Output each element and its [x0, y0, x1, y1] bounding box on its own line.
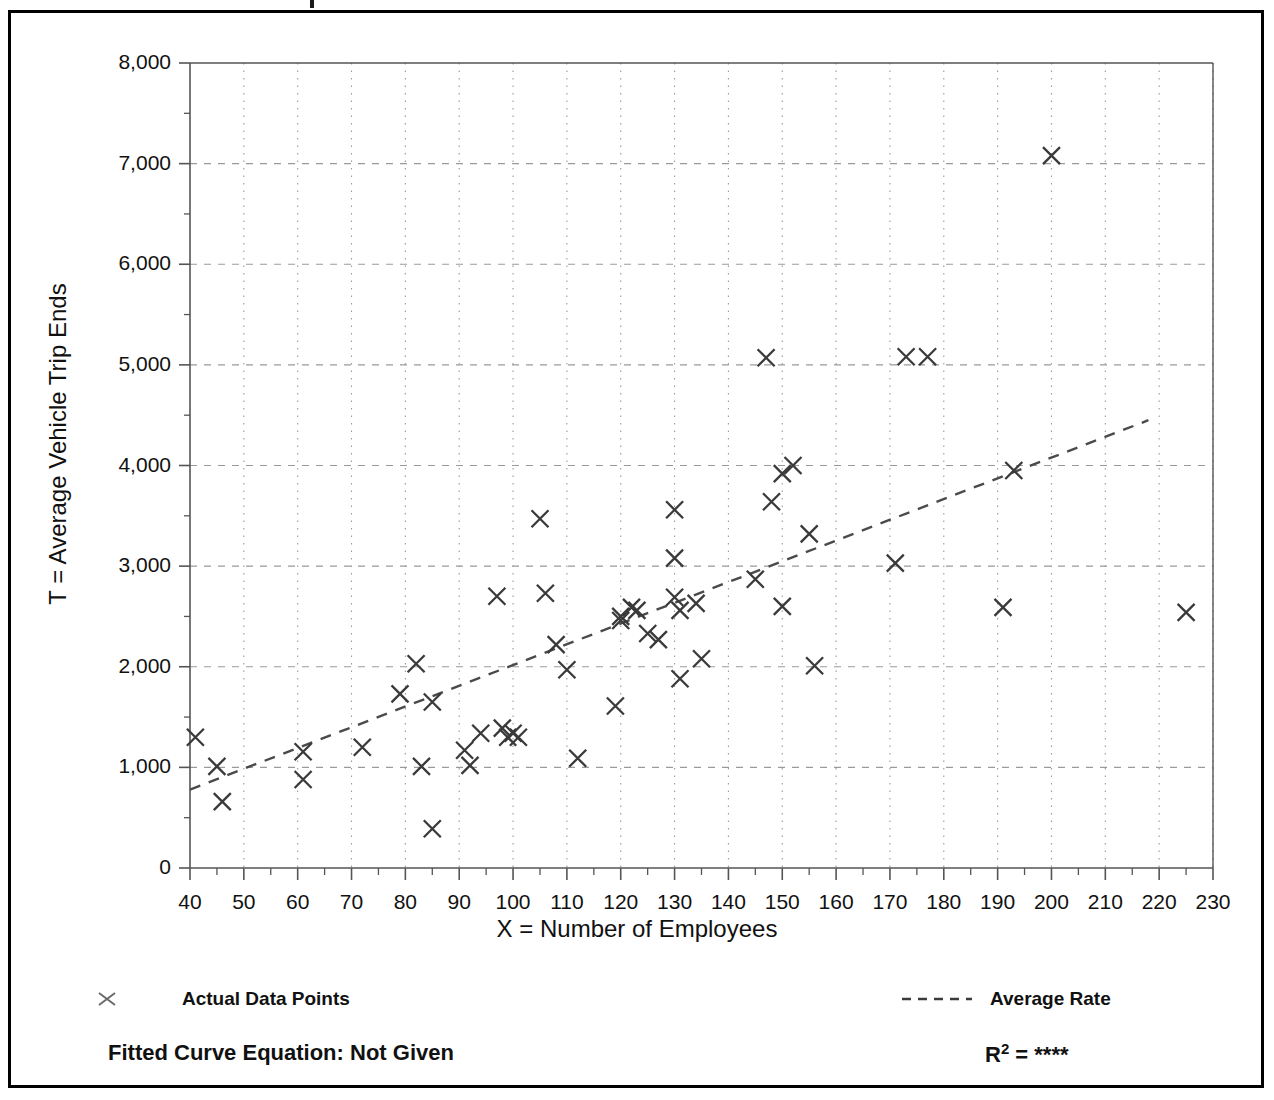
data-point — [887, 555, 904, 572]
data-point — [763, 493, 780, 510]
data-point — [214, 793, 231, 810]
data-point — [472, 725, 489, 742]
y-tick-label: 6,000 — [87, 251, 171, 275]
data-point-markers — [187, 147, 1195, 837]
y-tick-label: 7,000 — [87, 151, 171, 175]
legend-label-average-rate: Average Rate — [990, 988, 1111, 1010]
x-tick-label: 60 — [268, 890, 328, 914]
data-point — [628, 602, 645, 619]
x-tick-label: 180 — [914, 890, 974, 914]
y-tick-label: 4,000 — [87, 453, 171, 477]
data-point — [898, 348, 915, 365]
chart-footer: Fitted Curve Equation: Not Given R2 = **… — [0, 1040, 1274, 1076]
axis-ticks — [179, 63, 1213, 880]
data-point — [747, 571, 764, 588]
legend-label-actual-data-points: Actual Data Points — [182, 988, 350, 1010]
data-point — [537, 585, 554, 602]
y-tick-label: 2,000 — [87, 654, 171, 678]
r-squared-number: **** — [1034, 1042, 1068, 1067]
x-tick-label: 120 — [591, 890, 651, 914]
x-axis-title: X = Number of Employees — [0, 915, 1274, 943]
data-point — [774, 465, 791, 482]
data-point — [693, 650, 710, 667]
x-tick-label: 110 — [537, 890, 597, 914]
data-point — [569, 750, 586, 767]
x-tick-label: 150 — [752, 890, 812, 914]
r-squared-value: R2 = **** — [985, 1040, 1069, 1068]
chart-legend: Actual Data Points Average Rate — [0, 988, 1274, 1022]
data-point — [456, 742, 473, 759]
data-point — [995, 599, 1012, 616]
legend-item-average-rate: Average Rate — [900, 988, 1111, 1010]
data-point — [666, 501, 683, 518]
data-point — [806, 657, 823, 674]
data-point — [532, 510, 549, 527]
data-point — [672, 602, 689, 619]
r-squared-symbol: R — [985, 1042, 1001, 1067]
y-tick-label: 1,000 — [87, 754, 171, 778]
data-point — [488, 588, 505, 605]
data-point — [758, 349, 775, 366]
dashed-line-icon — [900, 990, 974, 1008]
y-tick-label: 5,000 — [87, 352, 171, 376]
data-point — [413, 758, 430, 775]
x-tick-label: 50 — [214, 890, 274, 914]
r-squared-exponent: 2 — [1001, 1040, 1009, 1057]
y-tick-label: 3,000 — [87, 553, 171, 577]
data-point — [408, 655, 425, 672]
data-point — [208, 758, 225, 775]
x-tick-label: 170 — [860, 890, 920, 914]
data-point — [688, 595, 705, 612]
data-point — [424, 694, 441, 711]
x-tick-label: 40 — [160, 890, 220, 914]
data-point — [510, 729, 527, 746]
y-axis-title: T = Average Vehicle Trip Ends — [44, 234, 72, 654]
x-tick-label: 160 — [806, 890, 866, 914]
data-point — [354, 739, 371, 756]
x-tick-label: 70 — [322, 890, 382, 914]
data-point — [424, 820, 441, 837]
data-point — [462, 757, 479, 774]
x-tick-label: 130 — [645, 890, 705, 914]
x-tick-label: 140 — [698, 890, 758, 914]
data-point — [392, 685, 409, 702]
x-tick-label: 200 — [1021, 890, 1081, 914]
r-squared-equals: = — [1009, 1042, 1034, 1067]
x-tick-label: 210 — [1075, 890, 1135, 914]
x-tick-label: 230 — [1183, 890, 1243, 914]
data-point — [919, 348, 936, 365]
x-tick-label: 90 — [429, 890, 489, 914]
data-point — [607, 698, 624, 715]
grid-lines — [190, 63, 1213, 868]
data-point — [774, 598, 791, 615]
scatter-chart: T = Average Vehicle Trip Ends X = Number… — [0, 0, 1274, 1100]
x-tick-label: 190 — [968, 890, 1028, 914]
data-point — [623, 599, 640, 616]
data-point — [548, 636, 565, 653]
x-marker-icon — [92, 990, 166, 1008]
y-tick-label: 8,000 — [87, 50, 171, 74]
fitted-curve-equation: Fitted Curve Equation: Not Given — [108, 1040, 454, 1066]
data-point — [295, 771, 312, 788]
data-point — [801, 525, 818, 542]
legend-item-actual-data-points: Actual Data Points — [92, 988, 350, 1010]
x-tick-label: 220 — [1129, 890, 1189, 914]
data-point — [666, 550, 683, 567]
x-tick-label: 80 — [375, 890, 435, 914]
data-point — [1178, 604, 1195, 621]
y-tick-label: 0 — [87, 855, 171, 879]
x-tick-label: 100 — [483, 890, 543, 914]
